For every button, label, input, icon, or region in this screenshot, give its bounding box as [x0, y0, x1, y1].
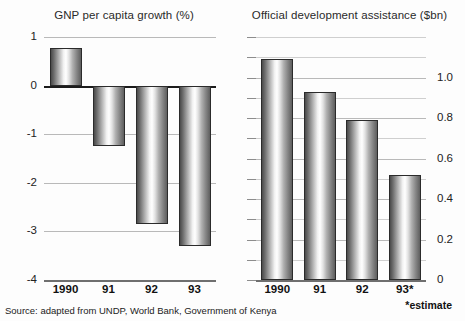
- y-axis-label: -4: [27, 274, 37, 286]
- x-axis-label: 91: [102, 283, 115, 295]
- figure-root: GNP per capita growth (%) 10-1-2-3-4 199…: [0, 0, 465, 321]
- gridline: [44, 280, 216, 282]
- gridline: [256, 57, 426, 58]
- y-axis-tick: [247, 219, 256, 220]
- y-axis-label: 0: [437, 274, 443, 286]
- source-note: Source: adapted from UNDP, World Bank, G…: [5, 305, 277, 316]
- y-axis-label: 0.8: [437, 112, 453, 124]
- gridline: [256, 37, 426, 38]
- y-axis-tick: [247, 37, 256, 38]
- gridline: [44, 37, 216, 38]
- bar: [304, 92, 336, 280]
- y-axis-label: 0.4: [437, 193, 453, 205]
- bar: [179, 86, 211, 246]
- x-axis-label: 92: [356, 283, 369, 295]
- y-axis-tick: [247, 260, 256, 261]
- y-axis-label: 1: [31, 31, 37, 43]
- y-axis-label: -1: [27, 128, 37, 140]
- y-axis-tick: [247, 179, 256, 180]
- x-axis-label: 1990: [264, 283, 290, 295]
- y-axis-label: 0.2: [437, 234, 453, 246]
- y-axis-label: 1.0: [437, 72, 453, 84]
- bar: [136, 86, 168, 225]
- x-axis-label: 93*: [396, 283, 413, 295]
- y-axis-tick: [247, 240, 256, 241]
- plot-area-left: 10-1-2-3-4: [44, 37, 216, 280]
- bar: [50, 48, 82, 86]
- chart-title-left: GNP per capita growth (%): [0, 9, 232, 21]
- chart-title-right: Official development assistance ($bn): [232, 9, 465, 21]
- x-axis-label: 1990: [53, 283, 79, 295]
- x-axis-label: 93: [188, 283, 201, 295]
- x-axis-label: 91: [313, 283, 326, 295]
- chart-panel-gnp-growth: GNP per capita growth (%) 10-1-2-3-4 199…: [0, 0, 232, 292]
- plot-area-right: 1.00.80.60.40.20: [256, 37, 426, 280]
- bar: [93, 86, 125, 147]
- y-axis-label: 0.6: [437, 153, 453, 165]
- bar: [261, 59, 293, 280]
- y-axis-tick: [247, 118, 256, 119]
- y-axis-tick: [247, 138, 256, 139]
- y-axis-tick: [247, 159, 256, 160]
- y-axis-tick: [247, 78, 256, 79]
- y-axis-tick: [247, 199, 256, 200]
- bar: [389, 175, 421, 280]
- x-axis-label: 92: [145, 283, 158, 295]
- bar: [346, 120, 378, 280]
- y-axis-tick: [247, 98, 256, 99]
- y-axis-label: -3: [27, 226, 37, 238]
- chart-panel-oda: Official development assistance ($bn) 1.…: [232, 0, 465, 292]
- y-axis-tick: [247, 280, 256, 281]
- y-axis-label: -2: [27, 177, 37, 189]
- y-axis-tick: [247, 57, 256, 58]
- y-axis-label: 0: [31, 80, 37, 92]
- estimate-footnote: *estimate: [405, 299, 452, 311]
- gridline: [256, 280, 426, 282]
